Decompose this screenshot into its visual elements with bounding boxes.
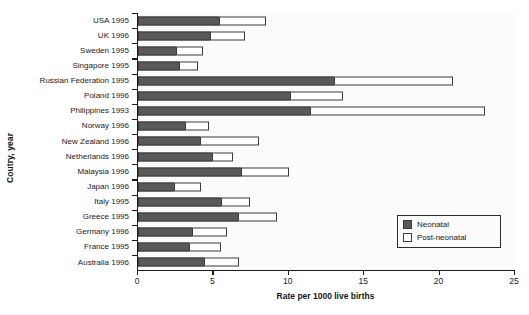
bar-row[interactable]	[138, 164, 515, 179]
x-axis-line	[137, 270, 514, 271]
x-axis-tick	[137, 270, 138, 275]
stacked-bar	[138, 243, 221, 252]
bar-segment-post-neonatal	[238, 212, 277, 221]
stacked-bar	[138, 31, 245, 40]
y-axis-title-text: Coutry, year	[5, 133, 15, 183]
y-axis-category-label: Russian Federation 1995	[18, 74, 133, 89]
y-axis-category-label: Netherlands 1996	[18, 149, 133, 164]
y-axis-title: Coutry, year	[2, 108, 18, 208]
bar-row[interactable]	[138, 194, 515, 209]
y-axis-category-label: Australia 1996	[18, 255, 133, 270]
x-axis-tick	[212, 270, 213, 275]
stacked-bar	[138, 167, 289, 176]
y-axis-category-label: USA 1995	[18, 13, 133, 28]
bar-row[interactable]	[138, 179, 515, 194]
y-axis-category-label: Italy 1995	[18, 195, 133, 210]
y-axis-category-label: Japan 1996	[18, 179, 133, 194]
stacked-bar	[138, 107, 485, 116]
stacked-bar	[138, 212, 277, 221]
bar-segment-post-neonatal	[219, 16, 266, 25]
y-axis-category-label: Sweden 1995	[18, 43, 133, 58]
bar-segment-neonatal	[138, 31, 210, 40]
bar-segment-post-neonatal	[185, 122, 209, 131]
bar-segment-post-neonatal	[310, 107, 485, 116]
legend-label-neonatal: Neonatal	[417, 221, 449, 229]
bar-segment-post-neonatal	[176, 46, 203, 55]
bar-row[interactable]	[138, 43, 515, 58]
bar-segment-neonatal	[138, 137, 200, 146]
bar-row[interactable]	[138, 13, 515, 28]
bar-segment-post-neonatal	[204, 258, 239, 267]
stacked-bar	[138, 76, 453, 85]
y-axis-category-label: Poland 1996	[18, 89, 133, 104]
bar-segment-neonatal	[138, 92, 290, 101]
x-axis-tick-label: 0	[135, 276, 140, 286]
bar-row[interactable]	[138, 255, 515, 270]
x-axis-tick	[514, 270, 515, 275]
bar-segment-post-neonatal	[200, 137, 259, 146]
bar-segment-post-neonatal	[179, 61, 199, 70]
stacked-bar	[138, 137, 259, 146]
bar-segment-post-neonatal	[221, 197, 250, 206]
stacked-bar	[138, 182, 201, 191]
y-axis-category-labels: USA 1995UK 1996Sweden 1995Singapore 1995…	[18, 13, 133, 270]
bar-row[interactable]	[138, 134, 515, 149]
bar-segment-post-neonatal	[210, 31, 245, 40]
bar-segment-neonatal	[138, 197, 221, 206]
x-axis-tick	[288, 270, 289, 275]
bar-row[interactable]	[138, 73, 515, 88]
legend-swatch-post-neonatal-icon	[403, 233, 412, 242]
bar-segment-neonatal	[138, 76, 334, 85]
y-axis-category-label: Germany 1996	[18, 225, 133, 240]
y-axis-category-label: Philippines 1993	[18, 104, 133, 119]
bar-segment-neonatal	[138, 182, 174, 191]
bar-segment-post-neonatal	[189, 243, 221, 252]
legend-item-post-neonatal[interactable]: Post-neonatal	[403, 233, 495, 242]
legend-label-post-neonatal: Post-neonatal	[417, 234, 466, 242]
bar-segment-neonatal	[138, 16, 219, 25]
legend-item-neonatal[interactable]: Neonatal	[403, 220, 495, 229]
x-axis-tick	[439, 270, 440, 275]
stacked-bar	[138, 258, 239, 267]
x-axis-tick-label: 25	[509, 276, 518, 286]
bar-segment-post-neonatal	[334, 76, 453, 85]
bar-segment-post-neonatal	[241, 167, 289, 176]
y-axis-category-label: Norway 1996	[18, 119, 133, 134]
bar-row[interactable]	[138, 58, 515, 73]
bar-segment-neonatal	[138, 258, 204, 267]
y-axis-category-label: France 1995	[18, 240, 133, 255]
bar-segment-post-neonatal	[192, 228, 227, 237]
bar-segment-neonatal	[138, 61, 179, 70]
bar-segment-neonatal	[138, 212, 238, 221]
bar-segment-neonatal	[138, 243, 189, 252]
y-axis-category-label: UK 1996	[18, 28, 133, 43]
bar-segment-post-neonatal	[174, 182, 201, 191]
x-axis-tick-label: 10	[283, 276, 292, 286]
stacked-bar	[138, 228, 227, 237]
y-axis-category-label: Greece 1995	[18, 210, 133, 225]
bar-segment-post-neonatal	[290, 92, 343, 101]
y-axis-category-label: New Zealand 1996	[18, 134, 133, 149]
bar-segment-neonatal	[138, 167, 241, 176]
stacked-bar	[138, 61, 198, 70]
stacked-bar	[138, 197, 250, 206]
bar-segment-neonatal	[138, 152, 212, 161]
stacked-bar	[138, 46, 203, 55]
x-axis-tick-label: 20	[434, 276, 443, 286]
bar-row[interactable]	[138, 89, 515, 104]
bar-row[interactable]	[138, 104, 515, 119]
bar-segment-neonatal	[138, 122, 185, 131]
legend-swatch-neonatal-icon	[403, 220, 412, 229]
bar-segment-neonatal	[138, 46, 176, 55]
bar-row[interactable]	[138, 119, 515, 134]
stacked-bar	[138, 16, 266, 25]
x-axis-title: Rate per 1000 live births	[137, 291, 514, 301]
stacked-bar	[138, 92, 343, 101]
x-axis-tick-label: 5	[210, 276, 215, 286]
bar-chart: Coutry, year USA 1995UK 1996Sweden 1995S…	[0, 0, 529, 315]
bar-row[interactable]	[138, 28, 515, 43]
bar-row[interactable]	[138, 149, 515, 164]
chart-legend: Neonatal Post-neonatal	[397, 215, 501, 248]
stacked-bar	[138, 152, 233, 161]
y-axis-category-label: Singapore 1995	[18, 58, 133, 73]
